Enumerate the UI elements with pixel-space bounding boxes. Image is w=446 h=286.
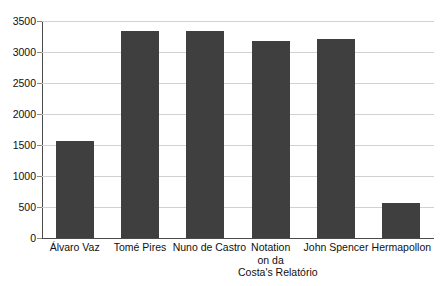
y-axis-tick-label: 500 (0, 202, 36, 212)
y-axis-tick-label: 3500 (0, 16, 36, 26)
x-axis: Álvaro VazTomé PiresNuno de CastroNotati… (42, 241, 434, 286)
y-axis-tick-label: 2500 (0, 78, 36, 88)
gridline (42, 176, 434, 177)
y-axis-tick-mark (37, 145, 42, 146)
gridline (42, 83, 434, 84)
bar[interactable] (121, 31, 159, 238)
x-axis-tick-label: Hermapollon (369, 241, 434, 254)
x-axis-tick-label-line: Hermapollon (369, 241, 434, 254)
bar[interactable] (56, 141, 94, 238)
y-axis-tick-mark (37, 207, 42, 208)
gridline (42, 207, 434, 208)
y-axis-tick-label: 1500 (0, 140, 36, 150)
bar[interactable] (252, 41, 290, 238)
y-axis-tick-label: 0 (0, 233, 36, 243)
plot-area (42, 21, 434, 238)
bar[interactable] (382, 203, 420, 238)
y-axis-tick-mark (37, 176, 42, 177)
y-axis-tick-label: 1000 (0, 171, 36, 181)
x-axis-tick-label: Nuno de Castro (173, 241, 238, 254)
bar-chart: 0500100015002000250030003500 Álvaro VazT… (0, 0, 446, 286)
x-axis-tick-label-line: Tomé Pires (107, 241, 172, 254)
y-axis-tick-mark (37, 52, 42, 53)
y-axis: 0500100015002000250030003500 (0, 0, 36, 286)
y-axis-tick-label: 3000 (0, 47, 36, 57)
x-axis-baseline (42, 238, 434, 239)
x-axis-tick-label-line: Costa's Relatório (238, 266, 303, 279)
y-axis-tick-label: 2000 (0, 109, 36, 119)
x-axis-tick-label: Notationon daCosta's Relatório (238, 241, 303, 279)
x-axis-tick-label: Tomé Pires (107, 241, 172, 254)
x-axis-tick-label: John Spencer (303, 241, 368, 254)
y-axis-tick-mark (37, 238, 42, 239)
x-axis-tick-label-line: Álvaro Vaz (42, 241, 107, 254)
x-axis-tick-label-line: on da (238, 254, 303, 267)
bar[interactable] (186, 31, 224, 238)
x-axis-tick-label-line: Nuno de Castro (173, 241, 238, 254)
y-axis-tick-mark (37, 21, 42, 22)
y-axis-tick-mark (37, 83, 42, 84)
x-axis-tick-label: Álvaro Vaz (42, 241, 107, 254)
gridline (42, 114, 434, 115)
gridline (42, 21, 434, 22)
x-axis-tick-label-line: Notation (238, 241, 303, 254)
bar[interactable] (317, 39, 355, 238)
x-axis-tick-label-line: John Spencer (303, 241, 368, 254)
gridline (42, 52, 434, 53)
gridline (42, 145, 434, 146)
y-axis-tick-mark (37, 114, 42, 115)
